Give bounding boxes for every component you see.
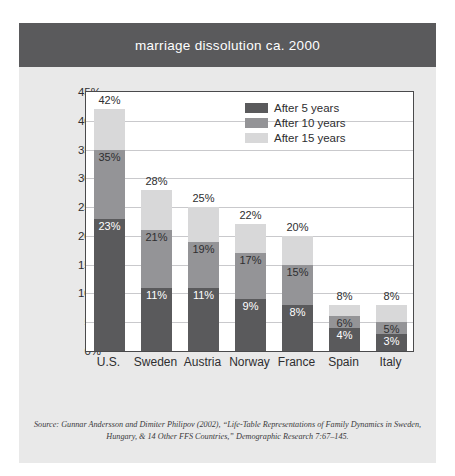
chart-title: marriage dissolution ca. 2000	[19, 23, 436, 67]
bar-value-label-5: 11%	[188, 289, 219, 301]
bar-group[interactable]	[376, 92, 407, 351]
bar-value-label-10: 6%	[329, 317, 360, 329]
legend-item[interactable]: After 5 years	[245, 100, 346, 115]
legend-item[interactable]: After 10 years	[245, 115, 346, 130]
bar-value-label-15: 8%	[319, 290, 370, 302]
source-note: Source: Gunnar Andersson and Dimiter Phi…	[19, 419, 436, 442]
bar-value-label-5: 23%	[94, 220, 125, 232]
legend-label: After 15 years	[274, 132, 346, 144]
chart-card: marriage dissolution ca. 2000 0%5%10%15%…	[19, 23, 436, 463]
bar-value-label-5: 4%	[329, 329, 360, 341]
legend-swatch	[245, 103, 268, 113]
bar-value-label-10: 19%	[188, 243, 219, 255]
bar-value-label-10: 35%	[94, 151, 125, 163]
bar-value-label-10: 17%	[235, 254, 266, 266]
bar-value-label-5: 8%	[282, 306, 313, 318]
legend-swatch	[245, 133, 268, 143]
chart-legend: After 5 yearsAfter 10 yearsAfter 15 year…	[245, 100, 346, 145]
bar-value-label-15: 20%	[272, 221, 323, 233]
legend-label: After 10 years	[274, 117, 346, 129]
plot-area-wrapper: 0%5%10%15%20%25%30%35%40%45% 42%35%23%28…	[19, 67, 436, 417]
bar-segment[interactable]	[94, 219, 125, 351]
bar-value-label-15: 25%	[178, 192, 229, 204]
legend-label: After 5 years	[274, 102, 339, 114]
legend-swatch	[245, 118, 268, 128]
bar-value-label-5: 11%	[141, 289, 172, 301]
bar-value-label-10: 5%	[376, 323, 407, 335]
bar-value-label-15: 28%	[131, 175, 182, 187]
source-line-1: Source: Gunnar Andersson and Dimiter Phi…	[19, 419, 436, 431]
bar-value-label-10: 21%	[141, 231, 172, 243]
legend-item[interactable]: After 15 years	[245, 130, 346, 145]
bar-value-label-15: 42%	[84, 94, 135, 106]
bar-value-label-15: 22%	[225, 209, 276, 221]
bar-value-label-10: 15%	[282, 266, 313, 278]
bar-group[interactable]	[141, 92, 172, 351]
bar-value-label-5: 9%	[235, 300, 266, 312]
bar-value-label-15: 8%	[366, 290, 417, 302]
source-line-2: Hungary, & 14 Other FFS Countries,” Demo…	[19, 431, 436, 443]
x-axis-tick-label: Italy	[357, 355, 424, 369]
bar-value-label-5: 3%	[376, 335, 407, 347]
bar-group[interactable]	[188, 92, 219, 351]
title-bar: marriage dissolution ca. 2000	[19, 23, 436, 67]
